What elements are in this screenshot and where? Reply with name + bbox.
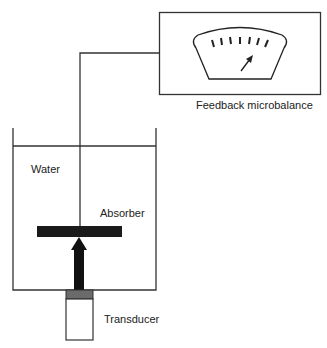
acoustic-force-arrow-icon	[71, 237, 87, 291]
dial-icon	[193, 28, 286, 80]
transducer-body	[66, 299, 93, 340]
absorber-label: Absorber	[100, 207, 145, 219]
dial-ticks	[212, 37, 268, 47]
transducer-cap	[66, 290, 93, 299]
dial-needle-icon	[241, 55, 253, 71]
water-label: Water	[31, 163, 60, 175]
transducer-label: Transducer	[104, 313, 159, 325]
suspension-wire	[80, 53, 160, 232]
microbalance-box	[160, 13, 321, 95]
balance-label: Feedback microbalance	[196, 99, 313, 111]
absorber	[37, 226, 122, 237]
